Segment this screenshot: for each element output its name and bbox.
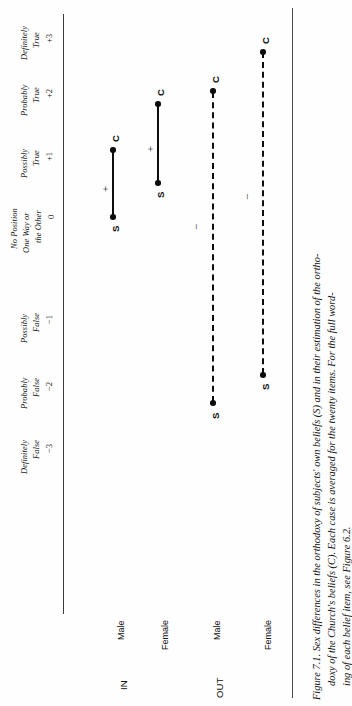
caption-line-1: Figure 7.1. Sex differences in the ortho…: [311, 254, 322, 700]
scale-tick-minus3-value: −3: [44, 444, 54, 453]
scale-tick-minus2-value: −2: [44, 382, 54, 391]
series-in-female-sign: +: [144, 146, 156, 152]
scale-tick-minus1-line1: Possibly: [20, 314, 29, 343]
series-out-female-stem: [262, 52, 264, 374]
scale-tick-plus2-line2: True: [32, 87, 41, 103]
series-in-male-point-s: [110, 214, 116, 220]
series-out-male-stem: [212, 92, 214, 402]
scale-tick-minus1-line2: False: [32, 313, 41, 332]
series-in-male-label-c: C: [110, 135, 121, 142]
scale-tick-zero-line1: No Position: [10, 208, 19, 249]
scale-tick-plus2-value: +2: [44, 89, 54, 98]
scale-tick-zero-line3: the Other: [34, 210, 43, 243]
row-label-out-male: Male: [212, 620, 222, 640]
scale-tick-plus1-line2: True: [32, 150, 41, 166]
chart-axis-line: [63, 14, 64, 614]
caption-line-3: ing of each belief item, see Figure 6.2.: [341, 527, 352, 686]
scale-tick-plus3-line1: Definitely: [20, 26, 29, 60]
series-in-female-point-s: [155, 180, 161, 186]
scale-tick-minus2-line2: False: [32, 378, 41, 397]
caption-line-2: doxy of the Church's beliefs (C). Each c…: [326, 292, 337, 686]
scale-tick-zero-value: 0: [46, 215, 56, 219]
series-out-male-sign: −: [190, 224, 202, 230]
group-label-out: OUT: [214, 678, 225, 698]
caption-rule: [292, 8, 293, 698]
row-label-out-female: Female: [263, 620, 273, 650]
series-in-female-label-s: S: [155, 192, 166, 198]
series-in-female-point-c: [155, 101, 161, 107]
scale-tick-minus2-line1: Probably: [20, 377, 29, 409]
series-out-male-point-s: [210, 400, 216, 406]
series-out-female-point-c: [260, 49, 266, 55]
scale-tick-minus3-line2: False: [32, 440, 41, 459]
series-out-female-sign: −: [241, 194, 253, 200]
figure-caption: Figure 7.1. Sex differences in the ortho…: [300, 0, 346, 706]
scale-tick-plus2-line1: Probably: [20, 84, 29, 116]
series-in-male-stem: [112, 150, 114, 218]
group-label-in: IN: [118, 680, 129, 690]
series-in-male-point-c: [110, 147, 116, 153]
series-in-female-label-c: C: [155, 89, 166, 96]
series-out-male-point-c: [210, 88, 216, 94]
series-out-male-label-c: C: [210, 76, 221, 83]
series-in-male-label-s: S: [110, 226, 121, 232]
scale-tick-plus3-value: +3: [44, 34, 54, 43]
scale-tick-plus3-line2: True: [32, 32, 41, 48]
scale-tick-zero-line2: One Way or: [22, 212, 31, 253]
scale-tick-minus1-value: −1: [44, 315, 54, 324]
row-label-in-female: Female: [160, 620, 170, 650]
series-out-female-point-s: [260, 372, 266, 378]
scale-tick-plus1-line1: Possibly: [20, 149, 29, 178]
series-out-female-label-s: S: [260, 384, 271, 390]
series-out-male-label-s: S: [210, 413, 221, 419]
series-out-female-label-c: C: [260, 37, 271, 44]
scale-tick-minus3-line1: Definitely: [20, 440, 29, 474]
series-in-female-stem: [157, 104, 159, 183]
row-label-in-male: Male: [116, 620, 126, 640]
series-in-male-sign: +: [99, 186, 111, 192]
scale-tick-plus1-value: +1: [44, 152, 54, 161]
